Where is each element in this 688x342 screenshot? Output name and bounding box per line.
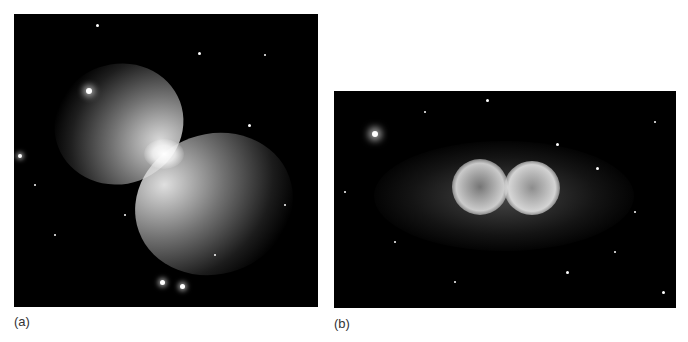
star (180, 284, 185, 289)
star (284, 204, 286, 206)
star (394, 241, 396, 243)
star (18, 154, 22, 158)
star (654, 121, 656, 123)
star (264, 54, 266, 56)
nebula-core (144, 139, 184, 169)
star (424, 111, 426, 113)
star (566, 271, 569, 274)
star (214, 254, 216, 256)
star (54, 234, 56, 236)
star (160, 280, 165, 285)
nebula-lobe-left (452, 159, 508, 215)
panel-label-a: (a) (14, 314, 30, 329)
star (556, 143, 559, 146)
star (198, 52, 201, 55)
nebula-lobe-right (504, 161, 560, 215)
panel-label-b: (b) (334, 316, 350, 331)
star (248, 124, 251, 127)
star (634, 211, 636, 213)
star (662, 291, 665, 294)
star (34, 184, 36, 186)
star (344, 191, 346, 193)
nebula-image-a (14, 14, 318, 307)
star (86, 88, 92, 94)
star (372, 131, 378, 137)
star (96, 24, 99, 27)
nebula-image-b (334, 91, 676, 308)
star (614, 251, 616, 253)
star (596, 167, 599, 170)
star (454, 281, 456, 283)
star (124, 214, 126, 216)
star (486, 99, 489, 102)
